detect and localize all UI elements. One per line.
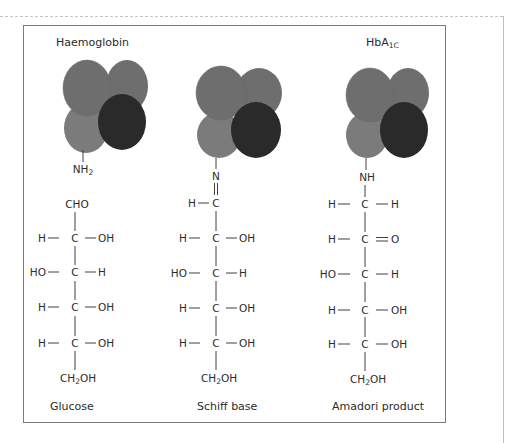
amadori-row1-left: H [328, 198, 336, 210]
glucose-row3-carbon: C [71, 301, 78, 313]
glucose-row2-carbon: C [71, 266, 78, 278]
glucose-row2-right: H [98, 266, 106, 278]
glucose-top-group: CHO [65, 198, 89, 210]
amadori-bottom-group: CH2OH [350, 373, 386, 385]
schiff-row2-carbon: C [212, 232, 219, 244]
schiff-row5-left: H [179, 337, 187, 349]
amadori-row2-right: O [391, 233, 399, 245]
schiff-row1-left: H [188, 197, 196, 209]
glucose-row2-left: HO [30, 266, 46, 278]
amadori-row3-carbon: C [361, 268, 368, 280]
caption-glucose: Glucose [50, 400, 94, 413]
schiff-row3-left: HO [171, 267, 187, 279]
schiff-row1-carbon: C [212, 197, 219, 209]
glucose-row3-right: OH [98, 301, 114, 313]
amadori-row5-right: OH [391, 338, 407, 350]
schiff-row5-carbon: C [212, 337, 219, 349]
caption-schiff-base: Schiff base [197, 400, 257, 413]
glucose-row4-left: H [38, 337, 46, 349]
diagram-stage: Haemoglobin HbA1C [0, 0, 519, 443]
glucose-row1-left: H [38, 232, 46, 244]
amadori-row5-left: H [328, 338, 336, 350]
hba1c-protein-icon [346, 68, 429, 158]
amadori-row2-carbon: C [361, 233, 368, 245]
amadori-row1-right: H [391, 198, 399, 210]
glucose-row1-carbon: C [71, 232, 78, 244]
schiff-row2-right: OH [239, 232, 255, 244]
amadori-row4-carbon: C [361, 304, 368, 316]
caption-amadori-product: Amadori product [332, 400, 424, 413]
haemoglobin-protein-icon [63, 60, 148, 153]
amadori-row2-left: H [328, 233, 336, 245]
glucose-bottom-group: CH2OH [60, 372, 96, 384]
schiff-row3-carbon: C [212, 267, 219, 279]
schiff-row5-right: OH [239, 337, 255, 349]
amadori-row3-right: H [391, 268, 399, 280]
glucose-row1-right: OH [98, 232, 114, 244]
schiff-attachment-nitrogen: N [212, 170, 220, 182]
amadori-row5-carbon: C [361, 338, 368, 350]
schiff-row4-right: OH [239, 302, 255, 314]
glucose-row4-carbon: C [71, 337, 78, 349]
schiff-row3-right: H [239, 267, 247, 279]
glucose-attachment-amine: NH2 [73, 163, 94, 175]
schiff-bottom-group: CH2OH [201, 372, 237, 384]
amadori-row4-left: H [328, 304, 336, 316]
glucose-row3-left: H [38, 301, 46, 313]
amadori-attachment-nh: NH [359, 171, 375, 183]
glucose-row4-right: OH [98, 337, 114, 349]
schiff-protein-icon [196, 66, 282, 158]
schiff-row4-carbon: C [212, 302, 219, 314]
schiff-row2-left: H [179, 232, 187, 244]
schiff-row4-left: H [179, 302, 187, 314]
amadori-row1-carbon: C [361, 198, 368, 210]
amadori-row4-right: OH [391, 304, 407, 316]
amadori-row3-left: HO [320, 268, 336, 280]
